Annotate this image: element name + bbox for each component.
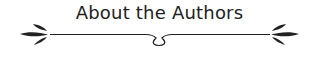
flourish-divider — [0, 0, 319, 58]
right-flourish-icon — [271, 24, 299, 45]
left-flourish-icon — [20, 24, 48, 45]
divider-line — [50, 35, 270, 46]
